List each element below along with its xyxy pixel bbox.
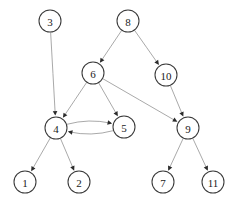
arrowhead-4-to-5 xyxy=(107,120,112,125)
node-label-5: 5 xyxy=(121,122,127,134)
graph-node-4[interactable]: 4 xyxy=(45,117,67,139)
graph-node-5[interactable]: 5 xyxy=(113,116,135,138)
edge-8-to-6 xyxy=(101,31,122,62)
arrowhead-3-to-4 xyxy=(53,111,58,116)
node-label-6: 6 xyxy=(90,68,96,80)
graph-node-8[interactable]: 8 xyxy=(117,10,139,32)
graph-node-3[interactable]: 3 xyxy=(39,10,61,32)
node-label-4: 4 xyxy=(53,123,59,135)
node-label-7: 7 xyxy=(160,177,166,189)
edge-5-to-4 xyxy=(69,131,113,134)
edge-9-to-11 xyxy=(193,138,207,169)
edge-10-to-9 xyxy=(170,86,182,116)
edge-8-to-10 xyxy=(135,31,158,64)
arrowhead-layer xyxy=(31,58,208,172)
node-label-1: 1 xyxy=(22,177,28,189)
node-label-2: 2 xyxy=(76,177,82,189)
arrowhead-6-to-4 xyxy=(63,113,67,118)
edge-9-to-7 xyxy=(169,138,183,169)
directed-graph-diagram: 3861045912711 xyxy=(0,0,242,206)
edge-6-to-4 xyxy=(64,83,87,117)
graph-node-2[interactable]: 2 xyxy=(68,171,90,193)
edge-6-to-5 xyxy=(99,83,117,115)
node-layer: 3861045912711 xyxy=(14,10,224,193)
graph-node-9[interactable]: 9 xyxy=(177,117,199,139)
edge-layer xyxy=(32,31,207,171)
arrowhead-8-to-10 xyxy=(154,60,159,65)
edge-4-to-1 xyxy=(32,138,50,170)
node-label-9: 9 xyxy=(185,123,191,135)
edge-4-to-2 xyxy=(61,139,74,170)
graph-node-11[interactable]: 11 xyxy=(202,171,224,193)
graph-node-10[interactable]: 10 xyxy=(155,64,177,86)
edge-4-to-5 xyxy=(67,121,111,124)
graph-node-7[interactable]: 7 xyxy=(152,171,174,193)
graph-node-1[interactable]: 1 xyxy=(14,171,36,193)
node-label-3: 3 xyxy=(47,16,53,28)
node-label-10: 10 xyxy=(161,70,173,82)
edge-3-to-4 xyxy=(51,33,56,115)
node-label-8: 8 xyxy=(125,16,131,28)
node-label-11: 11 xyxy=(208,177,219,189)
arrowhead-5-to-4 xyxy=(68,130,73,135)
arrowhead-8-to-6 xyxy=(100,58,104,63)
graph-node-6[interactable]: 6 xyxy=(82,62,104,84)
